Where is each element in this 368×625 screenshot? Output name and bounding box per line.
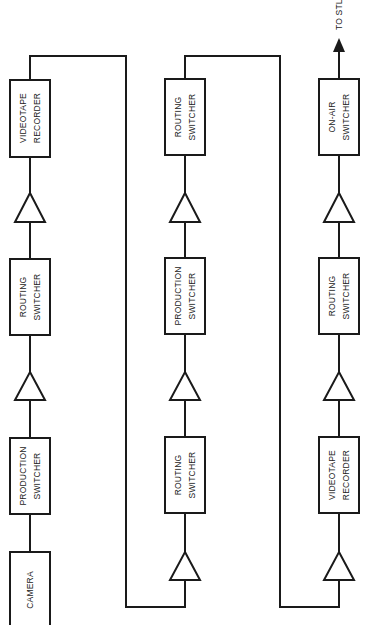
- amplifier-triangle-icon: [170, 552, 200, 580]
- on-air-switcher-box: [319, 79, 359, 155]
- box-label-line2: SWITCHER: [32, 274, 42, 321]
- camera-label: CAMERA: [25, 571, 35, 609]
- amplifier-triangle-icon: [15, 193, 45, 222]
- routing-switcher-box: [165, 79, 205, 155]
- box-label-line1: PRODUCTION: [18, 446, 28, 505]
- amplifier-triangle-icon: [170, 372, 200, 400]
- box-label-line1: ROUTING: [173, 97, 183, 138]
- connector-col2-to-col3: [185, 56, 339, 607]
- arrow-up-icon: [333, 38, 345, 52]
- box-label-line1: VIDEOTAPE: [327, 450, 337, 500]
- routing-switcher-box: [319, 258, 359, 334]
- box-label-line1: VIDEOTAPE: [18, 93, 28, 143]
- production-switcher-box: [10, 438, 50, 514]
- to-stl-label: TO STL: [334, 0, 344, 30]
- box-label-line2: RECORDER: [32, 93, 42, 143]
- amplifier-triangle-icon: [324, 552, 354, 580]
- box-label-line2: RECORDER: [341, 450, 351, 500]
- box-label-line2: SWITCHER: [187, 273, 197, 320]
- box-label-line1: PRODUCTION: [173, 266, 183, 325]
- box-label-line2: SWITCHER: [341, 273, 351, 320]
- box-label-line2: SWITCHER: [187, 452, 197, 499]
- connector-col1-to-col2: [30, 56, 185, 607]
- videotape-recorder-box: [10, 80, 50, 157]
- amplifier-triangle-icon: [170, 193, 200, 222]
- videotape-recorder-box: [319, 437, 359, 513]
- production-switcher-box: [165, 258, 205, 334]
- amplifier-triangle-icon: [324, 193, 354, 222]
- box-label-line2: SWITCHER: [187, 94, 197, 141]
- box-label-line2: SWITCHER: [341, 94, 351, 141]
- routing-switcher-box: [165, 437, 205, 513]
- box-label-line1: ROUTING: [173, 455, 183, 496]
- box-label-line1: ON-AIR: [327, 102, 337, 133]
- amplifier-triangle-icon: [324, 372, 354, 400]
- box-label-line2: SWITCHER: [32, 453, 42, 500]
- signal-flow-diagram: TO STL CAMERA PRODUCTION SWITCHER ROUTIN…: [0, 0, 368, 625]
- box-label-line1: ROUTING: [18, 277, 28, 318]
- amplifier-triangle-icon: [15, 372, 45, 400]
- routing-switcher-box: [10, 259, 50, 335]
- box-label-line1: ROUTING: [327, 276, 337, 317]
